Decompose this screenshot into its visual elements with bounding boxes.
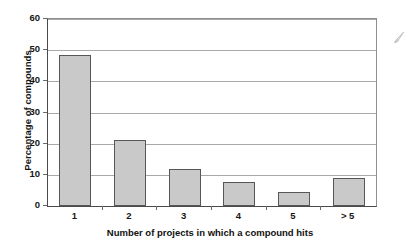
bar	[114, 140, 146, 206]
gridline	[48, 113, 376, 114]
y-tick-label: 20	[18, 138, 40, 148]
y-tick-label: 10	[18, 169, 40, 179]
x-tick-mark	[320, 206, 321, 210]
gridline	[48, 175, 376, 176]
x-tick-label: 2	[104, 210, 154, 221]
bar	[333, 178, 365, 206]
scan-smudge-icon	[392, 30, 406, 43]
bar	[278, 192, 310, 206]
x-tick-label: 4	[213, 210, 263, 221]
bar	[223, 182, 255, 206]
y-tick-label: 40	[18, 75, 40, 85]
x-tick-mark	[211, 206, 212, 210]
x-tick-mark	[102, 206, 103, 210]
x-axis-title: Number of projects in which a compound h…	[40, 227, 380, 238]
x-tick-mark	[266, 206, 267, 210]
bar	[59, 55, 91, 206]
y-tick-label: 0	[18, 200, 40, 210]
bar	[169, 169, 201, 206]
x-tick-label: 1	[49, 210, 99, 221]
y-tick-label: 60	[18, 13, 40, 23]
plot-area	[47, 18, 377, 207]
x-tick-label: 3	[159, 210, 209, 221]
gridline	[48, 50, 376, 51]
x-tick-label: 5	[268, 210, 318, 221]
gridline	[48, 81, 376, 82]
y-tick-label: 50	[18, 44, 40, 54]
gridline	[48, 19, 376, 20]
x-tick-label: > 5	[323, 210, 373, 221]
gridline	[48, 144, 376, 145]
x-tick-mark	[156, 206, 157, 210]
y-tick-label: 30	[18, 107, 40, 117]
bar-chart-figure: Percentage of compounds 0102030405060 12…	[0, 0, 420, 246]
